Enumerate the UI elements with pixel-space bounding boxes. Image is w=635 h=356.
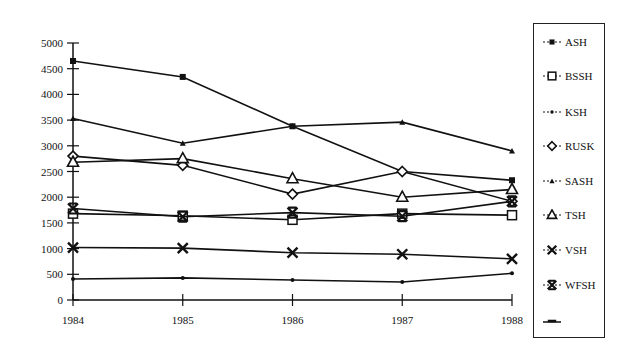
y-tick-label: 1000 xyxy=(41,243,64,255)
legend-label: KSH xyxy=(565,106,587,118)
legend-item-sash: SASH xyxy=(542,173,593,189)
y-tick-label: 3000 xyxy=(41,140,64,152)
legend-item-tsh: TSH xyxy=(542,207,586,223)
legend-label: TSH xyxy=(565,209,586,221)
legend-item-rusk: RUSK xyxy=(542,138,594,154)
legend-item-vsh: VSH xyxy=(542,242,587,258)
legend-label: SASH xyxy=(565,175,593,187)
open-diamond-marker-icon xyxy=(542,140,562,152)
dot-marker-icon xyxy=(542,106,562,118)
chart-legend: ASH BSSH KSH RUSK SASH TSH VSH WFSH xyxy=(533,23,605,338)
series-sash xyxy=(70,116,515,154)
y-tick-label: 4500 xyxy=(41,63,64,75)
legend-label: WFSH xyxy=(565,279,596,291)
y-tick-label: 1500 xyxy=(41,217,64,229)
legend-label: VSH xyxy=(565,244,587,256)
legend-item-ksh: KSH xyxy=(542,104,587,120)
triangle-marker-icon xyxy=(542,175,562,187)
x-cross-marker-icon xyxy=(542,244,562,256)
dash-marker-icon xyxy=(542,315,562,327)
bowtie-cross-marker-icon xyxy=(542,279,562,291)
legend-label: ASH xyxy=(565,36,587,48)
y-tick-label: 3500 xyxy=(41,114,64,126)
y-tick-label: 500 xyxy=(47,268,64,280)
x-tick-label: 1986 xyxy=(282,314,305,326)
x-tick-label: 1988 xyxy=(501,314,524,326)
x-tick-label: 1984 xyxy=(62,314,85,326)
chart-axes: 0500100015002000250030003500400045005000… xyxy=(41,37,524,326)
y-tick-label: 0 xyxy=(58,294,64,306)
legend-item-unnamed xyxy=(542,313,565,329)
y-tick-label: 4000 xyxy=(41,88,64,100)
series-ash xyxy=(70,58,515,183)
legend-label: RUSK xyxy=(565,140,594,152)
filled-square-marker-icon xyxy=(542,36,562,48)
legend-item-wfsh: WFSH xyxy=(542,277,596,293)
legend-label: BSSH xyxy=(565,70,593,82)
legend-item-bssh: BSSH xyxy=(542,68,593,84)
x-tick-label: 1985 xyxy=(172,314,195,326)
open-triangle-marker-icon xyxy=(542,209,562,221)
x-tick-label: 1987 xyxy=(391,314,414,326)
series-vsh xyxy=(68,243,517,264)
open-square-marker-icon xyxy=(542,70,562,82)
y-tick-label: 2000 xyxy=(41,191,64,203)
chart-series xyxy=(68,58,518,284)
series-ksh xyxy=(71,271,514,284)
legend-item-ash: ASH xyxy=(542,34,587,50)
y-tick-label: 2500 xyxy=(41,166,64,178)
y-tick-label: 5000 xyxy=(41,37,64,49)
